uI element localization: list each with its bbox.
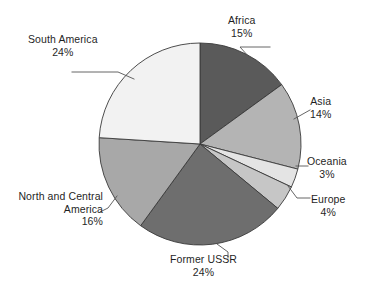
slice-label-asia-name: Asia [310,95,331,107]
slice-label-europe-name: Europe [311,193,345,205]
pie-slice-south-america [99,43,200,144]
slice-label-asia: Asia 14% [310,95,331,120]
slice-label-north-and-central-america-name-line2: America [3,203,103,216]
slice-label-north-and-central-america-name-line1: North and Central [18,190,103,202]
slice-label-north-and-central-america: North and Central America 16% [3,190,103,228]
slice-label-oceania-name: Oceania [307,155,347,167]
slice-label-former-ussr: Former USSR 24% [170,253,237,278]
slice-value-south-america: 24% [28,46,98,59]
slice-label-south-america-name: South America [28,33,98,45]
slice-value-former-ussr: 24% [170,266,237,279]
slice-value-asia: 14% [310,108,331,121]
slice-label-africa-name: Africa [228,14,255,26]
slice-label-oceania: Oceania 3% [307,155,347,180]
pie-chart: Africa 15% Asia 14% Oceania 3% Europe 4%… [0,0,365,295]
slice-label-africa: Africa 15% [228,14,255,39]
slice-label-former-ussr-name: Former USSR [170,253,237,265]
slice-value-europe: 4% [311,206,345,219]
slice-value-africa: 15% [228,27,255,40]
slice-label-europe: Europe 4% [311,193,345,218]
slice-label-south-america: South America 24% [28,33,98,58]
pie-slices-group [99,43,301,245]
slice-value-north-and-central-america: 16% [3,215,103,228]
slice-value-oceania: 3% [307,168,347,181]
